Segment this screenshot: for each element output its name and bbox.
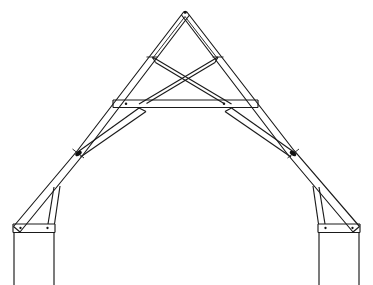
left-plate-peg-inner-icon: [46, 227, 48, 229]
apex-peg-icon: [184, 11, 187, 14]
left-plate-peg-outer-icon: [19, 227, 21, 229]
drawing-background: [0, 0, 373, 285]
right-plate-peg-outer-icon: [351, 227, 353, 229]
truss-elevation-diagram: [0, 0, 373, 285]
truss-drawing-canvas: Timber cruck-frame roof truss elevation: [0, 0, 373, 285]
apex-joint: [184, 11, 187, 14]
right-plate-peg-inner-icon: [324, 227, 326, 229]
collar-peg-left-icon: [125, 103, 128, 106]
collar-peg-right-icon: [223, 103, 226, 106]
